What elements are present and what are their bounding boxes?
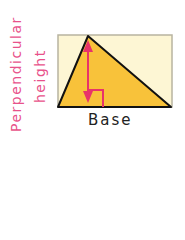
base-label: Base	[88, 111, 133, 129]
